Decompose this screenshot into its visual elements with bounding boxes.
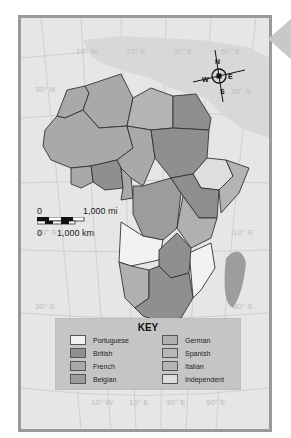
lon-label-10w-top: 10° W xyxy=(76,47,98,56)
page-pointer-arrow xyxy=(268,18,291,60)
swatch-italian xyxy=(162,361,178,371)
key-title: KEY xyxy=(56,322,240,333)
scale-bar-graphic xyxy=(37,217,87,227)
lon-label-30e-top: 30° E xyxy=(173,47,193,56)
key-label-british: British xyxy=(93,350,112,357)
scale-mi-zero: 0 xyxy=(37,206,42,216)
lat-label-30s-left: 30° S xyxy=(35,302,55,311)
lat-label-30n-left: 30° N xyxy=(35,85,55,94)
compass-east-label: E xyxy=(228,73,233,80)
lon-label-50e-top: 50° E xyxy=(221,47,241,56)
key-item-italian: Italian xyxy=(162,360,204,372)
compass-south-label: S xyxy=(220,88,225,95)
scale-km-label: 1,000 km xyxy=(57,228,94,238)
lat-label-10s-right: 10° S xyxy=(233,228,253,237)
compass-north-label: N xyxy=(215,58,220,65)
scale-bar: 0 1,000 mi 0 1,000 km xyxy=(35,206,125,246)
key-item-german: German xyxy=(162,334,210,346)
scale-km-zero: 0 xyxy=(37,228,42,238)
lon-label-10e-top: 10° E xyxy=(126,47,146,56)
map-key: KEY Portuguese British French Belgian Ge… xyxy=(55,318,241,390)
key-label-french: French xyxy=(93,363,115,370)
key-item-french: French xyxy=(70,360,115,372)
map-frame: 10° W 10° E 30° E 50° E 30° N 30° N 10° … xyxy=(18,15,272,432)
lon-label-30e-bottom: 30° E xyxy=(166,398,186,407)
key-label-german: German xyxy=(185,337,210,344)
lat-label-30s-right: 30° S xyxy=(233,302,253,311)
key-label-belgian: Belgian xyxy=(93,376,116,383)
swatch-british xyxy=(70,348,86,358)
key-label-spanish: Spanish xyxy=(185,350,210,357)
scale-mi-label: 1,000 mi xyxy=(83,206,118,216)
key-label-independent: Independent xyxy=(185,376,224,383)
lat-label-30n-right: 30° N xyxy=(231,87,251,96)
lon-label-10e-bottom: 10° E xyxy=(129,398,149,407)
key-item-portuguese: Portuguese xyxy=(70,334,129,346)
swatch-french xyxy=(70,361,86,371)
swatch-independent xyxy=(162,374,178,384)
key-label-italian: Italian xyxy=(185,363,204,370)
lon-label-10w-bottom: 10° W xyxy=(91,398,113,407)
swatch-belgian xyxy=(70,374,86,384)
key-label-portuguese: Portuguese xyxy=(93,337,129,344)
lon-label-50e-bottom: 50° E xyxy=(206,398,226,407)
key-item-spanish: Spanish xyxy=(162,347,210,359)
swatch-portuguese xyxy=(70,335,86,345)
key-item-belgian: Belgian xyxy=(70,373,116,385)
key-item-independent: Independent xyxy=(162,373,224,385)
africa-colonies xyxy=(43,74,249,322)
swatch-spanish xyxy=(162,348,178,358)
swatch-german xyxy=(162,335,178,345)
compass-west-label: W xyxy=(202,76,209,83)
key-item-british: British xyxy=(70,347,112,359)
